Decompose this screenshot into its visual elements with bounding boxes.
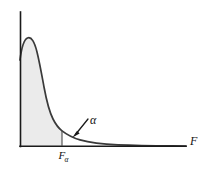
- shaded-body-region: [20, 38, 62, 146]
- fdistribution-chart: α F F α: [0, 0, 208, 172]
- x-axis-label: F: [189, 134, 198, 148]
- critical-value-subscript: α: [65, 155, 70, 164]
- fdistribution-figure: α F F α: [0, 0, 208, 172]
- tail-area-label: α: [90, 113, 97, 127]
- alpha-arrow-head: [72, 131, 79, 138]
